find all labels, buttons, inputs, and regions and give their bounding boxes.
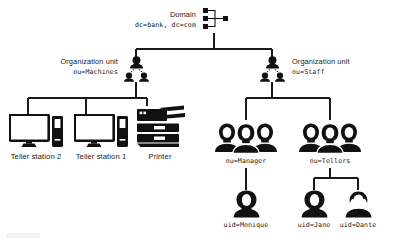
node-uid-dante[interactable] <box>345 188 372 218</box>
teller-station-2-label: Teller station 2 <box>11 152 62 161</box>
user-group-icon <box>123 55 150 83</box>
node-teller-station-2[interactable] <box>9 114 64 148</box>
ou-machines-title: Organization unit <box>60 57 118 66</box>
node-ou-tellers[interactable] <box>298 118 362 154</box>
node-uid-jane[interactable] <box>301 188 328 218</box>
node-uid-monique[interactable] <box>233 188 260 218</box>
uid-dante-label: uid=Dante <box>340 221 377 229</box>
printer-icon <box>135 104 186 148</box>
people-group-icon <box>214 118 278 154</box>
person-female-icon <box>301 188 328 218</box>
node-ou-machines[interactable] <box>123 55 150 83</box>
uid-jane-label: uid=Jane <box>298 221 331 229</box>
ou-staff-title: Organization unit <box>292 57 350 66</box>
person-male-icon <box>345 188 372 218</box>
corner-artifact <box>6 233 40 238</box>
ldap-tree-diagram: Domain dc=bank, dc=com Organizat <box>0 0 394 243</box>
node-printer[interactable] <box>135 104 186 148</box>
ou-machines-dn: ou=Machines <box>73 68 118 76</box>
ou-staff-dn: ou=Staff <box>292 68 325 76</box>
ou-tellers-label: ou=Tellers <box>310 157 351 165</box>
domain-title: Domain <box>170 10 196 19</box>
people-group-icon <box>298 118 362 154</box>
node-ou-staff[interactable] <box>259 55 286 83</box>
desktop-computer-icon <box>9 114 64 148</box>
uid-monique-label: uid=Monique <box>224 221 269 229</box>
printer-label: Printer <box>148 152 171 161</box>
domain-dn: dc=bank, dc=com <box>135 21 196 29</box>
desktop-computer-icon <box>74 114 129 148</box>
node-teller-station-1[interactable] <box>74 114 129 148</box>
node-ou-manager[interactable] <box>214 118 278 154</box>
network-tree-icon <box>202 6 232 34</box>
person-female-icon <box>233 188 260 218</box>
teller-station-1-label: Teller station 1 <box>76 152 127 161</box>
ou-manager-label: ou=Manager <box>226 157 267 165</box>
user-group-icon <box>259 55 286 83</box>
node-domain[interactable] <box>202 6 232 34</box>
